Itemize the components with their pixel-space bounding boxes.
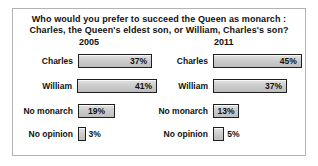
bar-row-2011-william: William 37% <box>149 78 307 94</box>
value-label: 45% <box>280 56 297 66</box>
bar-row-2011-no-monarch: No monarch 13% <box>149 103 307 119</box>
bar-row-2005-william: William 41% <box>15 78 157 94</box>
bar-2011-charles: 45% <box>213 54 302 68</box>
value-label: 37% <box>130 56 147 66</box>
bar-row-2011-charles: Charles 45% <box>149 53 307 69</box>
bar-row-2005-no-opinion: No opinion 3% <box>15 126 157 142</box>
bar-2011-no-monarch: 13% <box>213 104 239 118</box>
bar-row-2005-charles: Charles 37% <box>15 53 157 69</box>
category-label: Charles <box>15 56 73 66</box>
category-label: William <box>15 81 72 91</box>
chart-title-line1: Who would you prefer to succeed the Quee… <box>21 14 297 25</box>
survey-chart-figure: Who would you prefer to succeed the Quee… <box>0 0 318 166</box>
category-label: Charles <box>149 56 208 66</box>
value-label: 19% <box>88 106 105 116</box>
bar-2011-william: 37% <box>213 79 287 93</box>
value-label: 13% <box>217 106 234 116</box>
chart-title-line2: Charles, the Queen's eldest son, or Will… <box>21 25 297 36</box>
panel-header-2005: 2005 <box>79 37 99 47</box>
value-label: 5% <box>227 129 239 139</box>
bar-2005-no-monarch: 19% <box>78 104 115 118</box>
chart-frame: Who would you prefer to succeed the Quee… <box>12 8 306 156</box>
value-label: 37% <box>265 81 282 91</box>
category-label: No opinion <box>149 129 208 139</box>
category-label: No monarch <box>15 106 73 116</box>
bar-row-2005-no-monarch: No monarch 19% <box>15 103 157 119</box>
category-label: No opinion <box>15 129 73 139</box>
panel-header-2011: 2011 <box>214 37 234 47</box>
bar-2011-no-opinion <box>213 127 224 141</box>
bar-2005-charles: 37% <box>78 54 152 68</box>
category-label: William <box>149 81 208 91</box>
bar-2005-no-opinion <box>78 127 86 141</box>
bar-row-2011-no-opinion: No opinion 5% <box>149 126 307 142</box>
chart-title: Who would you prefer to succeed the Quee… <box>21 14 297 36</box>
bar-2005-william: 41% <box>77 79 157 93</box>
category-label: No monarch <box>149 106 208 116</box>
value-label: 3% <box>89 129 101 139</box>
